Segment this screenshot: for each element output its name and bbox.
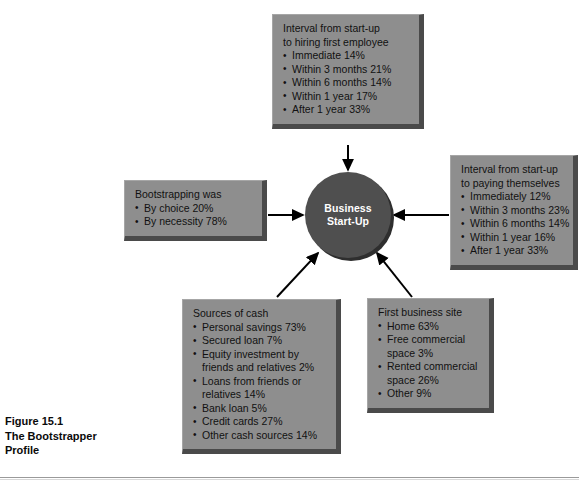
item-text: Immediately 12%	[470, 190, 551, 202]
item-text: Within 6 months 14%	[292, 76, 391, 88]
item-text: Secured loan 7%	[202, 334, 282, 346]
box-paying-list: Immediately 12% Within 3 months 23% With…	[461, 190, 564, 258]
list-item: Within 1 year 17%	[283, 90, 410, 104]
figure-title-line2: Profile	[5, 443, 97, 458]
box-paying-interval[interactable]: Interval from start-up to paying themsel…	[450, 155, 578, 270]
box-bootstrapping-was[interactable]: Bootstrapping was By choice 20% By neces…	[124, 180, 267, 241]
list-item: After 1 year 33%	[283, 103, 410, 117]
box-bootstrap-title: Bootstrapping was	[135, 188, 253, 202]
figure-title-line1: The Bootstrapper	[5, 429, 97, 444]
list-item: Immediate 14%	[283, 49, 410, 63]
item-text: Within 3 months 23%	[470, 204, 569, 216]
arrow-sources-to-center	[277, 253, 318, 297]
center-node-business-start-up[interactable]: Business Start-Up	[305, 172, 391, 258]
item-text: Other 9%	[387, 387, 431, 399]
list-item: Within 1 year 16%	[461, 231, 564, 245]
item-text: After 1 year 33%	[470, 244, 548, 256]
list-item: By necessity 78%	[135, 215, 253, 229]
item-text: Within 6 months 14%	[470, 217, 569, 229]
item-text: Within 1 year 16%	[470, 231, 555, 243]
item-text: Immediate 14%	[292, 49, 365, 61]
list-item: Personal savings 73%	[193, 321, 327, 335]
item-text: Rented commercial	[387, 360, 477, 372]
list-item: Other cash sources 14%	[193, 429, 327, 443]
list-item: Within 3 months 21%	[283, 63, 410, 77]
box-sources-title: Sources of cash	[193, 307, 327, 321]
box-hiring-list: Immediate 14% Within 3 months 21% Within…	[283, 49, 410, 117]
list-item: After 1 year 33%	[461, 244, 564, 258]
page-bottom-rule	[0, 477, 579, 478]
item-text-cont: space 26%	[387, 374, 480, 388]
list-item: Free commercial space 3%	[378, 333, 480, 360]
list-item: Within 6 months 14%	[461, 217, 564, 231]
list-item: Equity investment by friends and relativ…	[193, 348, 327, 375]
box-bootstrap-list: By choice 20% By necessity 78%	[135, 202, 253, 229]
figure-number: Figure 15.1	[5, 414, 97, 429]
center-node-label-line2: Start-Up	[327, 215, 369, 228]
item-text: Within 3 months 21%	[292, 63, 391, 75]
item-text: Equity investment by	[202, 348, 299, 360]
item-text: Home 63%	[387, 320, 439, 332]
list-item: Within 6 months 14%	[283, 76, 410, 90]
item-text: Other cash sources 14%	[202, 429, 317, 441]
box-paying-title-line1: Interval from start-up	[461, 163, 564, 177]
figure-canvas: Business Start-Up Interval from start-up…	[0, 0, 579, 485]
item-text-cont: relatives 14%	[202, 388, 327, 402]
list-item: Home 63%	[378, 320, 480, 334]
box-site-title: First business site	[378, 306, 480, 320]
list-item: Secured loan 7%	[193, 334, 327, 348]
item-text-cont: friends and relatives 2%	[202, 361, 327, 375]
item-text: Within 1 year 17%	[292, 90, 377, 102]
box-hiring-title-line1: Interval from start-up	[283, 22, 410, 36]
list-item: Bank loan 5%	[193, 402, 327, 416]
item-text: Free commercial	[387, 333, 465, 345]
item-text: Loans from friends or	[202, 375, 301, 387]
box-paying-title-line2: to paying themselves	[461, 177, 564, 191]
item-text: By choice 20%	[144, 202, 213, 214]
list-item: Other 9%	[378, 387, 480, 401]
center-node-label-line1: Business	[324, 202, 372, 215]
list-item: Loans from friends or relatives 14%	[193, 375, 327, 402]
box-hiring-title-line2: to hiring first employee	[283, 36, 410, 50]
box-hiring-interval[interactable]: Interval from start-up to hiring first e…	[272, 14, 424, 129]
figure-caption: Figure 15.1 The Bootstrapper Profile	[5, 414, 97, 458]
list-item: Within 3 months 23%	[461, 204, 564, 218]
item-text: By necessity 78%	[144, 215, 227, 227]
list-item: By choice 20%	[135, 202, 253, 216]
item-text: Credit cards 27%	[202, 415, 283, 427]
arrow-site-to-center	[377, 253, 412, 297]
box-site-list: Home 63% Free commercial space 3% Rented…	[378, 320, 480, 401]
box-sources-list: Personal savings 73% Secured loan 7% Equ…	[193, 321, 327, 443]
item-text: Personal savings 73%	[202, 321, 306, 333]
box-sources-of-cash[interactable]: Sources of cash Personal savings 73% Sec…	[182, 299, 341, 454]
list-item: Credit cards 27%	[193, 415, 327, 429]
list-item: Rented commercial space 26%	[378, 360, 480, 387]
list-item: Immediately 12%	[461, 190, 564, 204]
item-text-cont: space 3%	[387, 347, 480, 361]
box-first-business-site[interactable]: First business site Home 63% Free commer…	[367, 298, 494, 413]
item-text: Bank loan 5%	[202, 402, 267, 414]
item-text: After 1 year 33%	[292, 103, 370, 115]
page-bottom-rule-highlight	[0, 479, 579, 480]
